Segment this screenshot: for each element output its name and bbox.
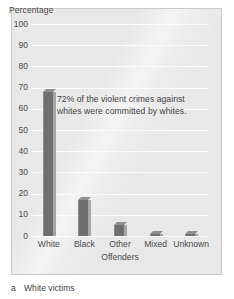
x-axis-tick-labels: WhiteBlackOtherMixedUnknown bbox=[31, 239, 209, 251]
gridline bbox=[31, 215, 209, 216]
plot-area bbox=[31, 24, 209, 236]
y-tick-label: 100 bbox=[14, 20, 28, 29]
bar bbox=[150, 234, 160, 236]
bar bbox=[114, 225, 124, 236]
bar-side-face bbox=[53, 92, 56, 236]
bar bbox=[43, 92, 53, 236]
bar bbox=[185, 234, 195, 236]
y-tick-label: 80 bbox=[19, 62, 28, 71]
bar-side-face bbox=[88, 200, 91, 236]
gridline bbox=[31, 88, 209, 89]
y-tick-label: 60 bbox=[19, 104, 28, 113]
annotation-line: whites were committed by whites. bbox=[57, 106, 207, 118]
bar-side-face bbox=[195, 234, 198, 236]
figure: Percentage 0102030405060708090100 72% of… bbox=[0, 0, 234, 299]
chart-annotation: 72% of the violent crimes againstwhites … bbox=[57, 94, 207, 117]
caption-text: White victims bbox=[24, 283, 75, 293]
x-tick-label: Unknown bbox=[161, 239, 221, 249]
gridline bbox=[31, 130, 209, 131]
y-tick-label: 10 bbox=[19, 210, 28, 219]
y-tick-label: 50 bbox=[19, 126, 28, 135]
y-tick-label: 40 bbox=[19, 147, 28, 156]
bar-side-face bbox=[124, 225, 127, 236]
gridline bbox=[31, 45, 209, 46]
y-tick-label: 70 bbox=[19, 83, 28, 92]
annotation-line: 72% of the violent crimes against bbox=[57, 94, 207, 106]
x-axis-title: Offenders bbox=[31, 252, 209, 262]
y-axis-tick-labels: 0102030405060708090100 bbox=[9, 24, 28, 236]
gridline bbox=[31, 172, 209, 173]
y-tick-label: 20 bbox=[19, 189, 28, 198]
y-tick-label: 90 bbox=[19, 41, 28, 50]
caption-index: a bbox=[11, 283, 24, 293]
gridline bbox=[31, 24, 209, 25]
bar bbox=[78, 200, 88, 236]
gridline bbox=[31, 194, 209, 195]
gridline bbox=[31, 151, 209, 152]
gridline bbox=[31, 66, 209, 67]
y-tick-label: 30 bbox=[19, 168, 28, 177]
figure-caption: aWhite victims bbox=[11, 283, 75, 293]
bar-side-face bbox=[160, 234, 163, 236]
gridline bbox=[31, 236, 209, 237]
y-axis-title: Percentage bbox=[9, 5, 53, 15]
